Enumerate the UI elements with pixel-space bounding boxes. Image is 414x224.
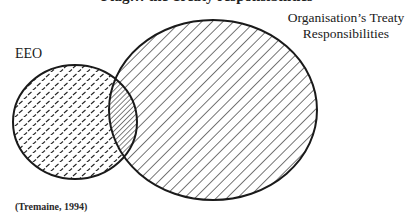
set-treaty-label-line-2: Responsibilities — [283, 26, 409, 42]
set-treaty-label: Organisation’s Treaty Responsibilities — [283, 10, 409, 42]
citation: (Tremaine, 1994) — [15, 201, 87, 212]
set-treaty-label-line-1: Organisation’s Treaty — [283, 10, 409, 26]
set-eeo-label: EEO — [15, 46, 42, 62]
